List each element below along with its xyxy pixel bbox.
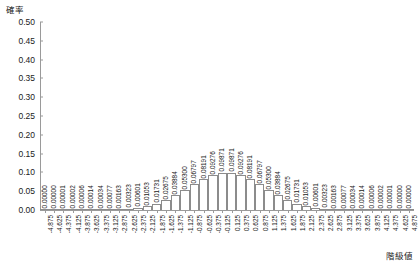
x-tick-mark [353,210,354,213]
bar-series: 0.000000.000000.000010.000020.000060.000… [40,22,414,210]
bar-value-label: 0.08191 [247,155,253,178]
x-tick-mark [278,210,279,213]
bar-cell: 0.00163 [330,22,339,210]
y-tick-label: 0.35 [0,73,39,83]
x-tick-mark [269,210,270,213]
bar-cell: 0.09276 [236,22,245,210]
bar-cell: 0.00014 [87,22,96,210]
y-tick-label: 0.25 [0,111,39,121]
bar-cell: 0.05300 [180,22,189,210]
y-tick-label: 0.10 [0,167,39,177]
bar-cell: 0.00002 [68,22,77,210]
x-tick-mark [129,210,130,213]
bar-cell: 0.01053 [302,22,311,210]
x-tick-cell: -4.125 [68,210,77,263]
x-tick-mark [325,210,326,213]
bar-value-label: 0.00034 [98,185,104,208]
x-tick-cell: -4.875 [40,210,49,263]
plot-area: 0.000000.000000.000010.000020.000060.000… [40,22,414,210]
bar-value-label: 0.00006 [369,185,375,208]
bar-cell: 0.00000 [404,22,413,210]
bar-value-label: 0.00163 [332,185,338,208]
x-tick-cell: -4.625 [49,210,58,263]
x-tick-cell: -2.125 [143,210,152,263]
bar-value-label: 0.02675 [163,176,169,199]
x-tick-mark [147,210,148,213]
x-tick-mark [166,210,167,213]
bar-cell: 0.09871 [218,22,227,210]
bar: 0.02675 [161,200,170,210]
y-tick-label: 0.20 [0,130,39,140]
bar-value-label: 0.01731 [154,179,160,202]
x-tick-mark [157,210,158,213]
x-tick-mark [119,210,120,213]
x-tick-cell: -2.625 [124,210,133,263]
bar-cell: 0.00006 [367,22,376,210]
bar-cell: 0.00034 [348,22,357,210]
x-tick-cell: -1.875 [152,210,161,263]
bar-value-label: 0.00601 [135,184,141,207]
x-tick-mark [316,210,317,213]
x-tick-mark [232,210,233,213]
x-tick-mark [222,210,223,213]
x-tick-mark [306,210,307,213]
bar-cell: 0.00014 [358,22,367,210]
bar-value-label: 0.00002 [70,185,76,208]
bar-value-label: 0.00163 [117,185,123,208]
x-tick-mark [213,210,214,213]
bar-value-label: 0.00000 [397,185,403,208]
x-tick-mark [185,210,186,213]
bar-cell: 0.00000 [49,22,58,210]
histogram-chart: 確率 0.500.450.400.350.300.250.200.150.100… [0,0,418,263]
bar-cell: 0.00000 [40,22,49,210]
bar-cell: 0.00077 [339,22,348,210]
x-tick-mark [175,210,176,213]
bar: 0.08191 [199,179,208,210]
x-tick-mark [63,210,64,213]
x-tick-mark [362,210,363,213]
bar-value-label: 0.03884 [275,171,281,194]
x-tick-mark [91,210,92,213]
bar-value-label: 0.06797 [257,160,263,183]
x-tick-mark [54,210,55,213]
bar-cell: 0.00001 [59,22,68,210]
x-tick-cell: 2.625 [320,210,329,263]
bar-value-label: 0.00014 [89,185,95,208]
x-tick-cell: 3.875 [367,210,376,263]
x-tick-cell: 1.125 [264,210,273,263]
bar-value-label: 0.05300 [182,166,188,189]
x-tick-cell: 0.625 [246,210,255,263]
x-tick-mark [73,210,74,213]
x-tick-mark [241,210,242,213]
x-tick-mark [204,210,205,213]
bar-value-label: 0.03884 [173,171,179,194]
bar-value-label: 0.00323 [126,185,132,208]
bar-value-label: 0.09871 [229,149,235,172]
bar-value-label: 0.06797 [191,160,197,183]
bar-cell: 0.09871 [227,22,236,210]
x-tick-mark [372,210,373,213]
x-axis-ticks: -4.875-4.625-4.375-4.125-3.875-3.625-3.3… [40,210,414,263]
bar-cell: 0.00163 [115,22,124,210]
x-tick-cell: 4.125 [376,210,385,263]
x-tick-mark [288,210,289,213]
bar: 0.03884 [274,195,283,210]
bar-value-label: 0.00001 [61,185,67,208]
bar-value-label: 0.00077 [107,185,113,208]
bar-cell: 0.03884 [274,22,283,210]
bar-cell: 0.00323 [124,22,133,210]
x-tick-mark [82,210,83,213]
bar-value-label: 0.00002 [378,185,384,208]
x-tick-mark [297,210,298,213]
bar-value-label: 0.00601 [313,184,319,207]
bar-cell: 0.01053 [143,22,152,210]
y-tick-label: 0.50 [0,17,39,27]
bar-value-label: 0.00000 [406,185,412,208]
bar-value-label: 0.00000 [51,185,57,208]
bar-cell: 0.06797 [255,22,264,210]
bar-cell: 0.08191 [199,22,208,210]
x-tick-mark [260,210,261,213]
bar: 0.03884 [171,195,180,210]
bar: 0.09276 [208,175,217,210]
bar: 0.09871 [227,173,236,210]
